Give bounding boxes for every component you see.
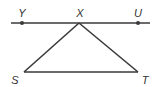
label-x: X <box>76 8 83 19</box>
point-y-dot <box>20 21 24 25</box>
point-u-dot <box>136 21 140 25</box>
label-y: Y <box>18 8 25 19</box>
label-u: U <box>134 8 142 19</box>
segment-xt <box>79 23 138 72</box>
segment-xs <box>24 23 79 72</box>
label-t: T <box>142 75 149 86</box>
label-s: S <box>11 75 18 86</box>
